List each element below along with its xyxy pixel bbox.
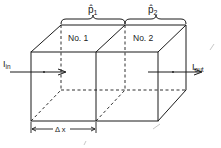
top-mid-edge <box>96 25 125 52</box>
diagram-canvas: p̂1 p̂2 No. 1 No. 2 Iin Iout Δ x <box>0 0 221 148</box>
brace-cell-1 <box>61 15 125 24</box>
braces <box>61 15 186 24</box>
p-hat-1-label: p̂1 <box>88 4 98 16</box>
input-arrow-dot <box>43 71 45 73</box>
top-left-edge <box>31 25 61 52</box>
hidden-bottom-mid-edge <box>96 90 125 121</box>
cell-2-label: No. 2 <box>133 33 154 43</box>
output-arrow-dot <box>172 71 174 73</box>
two-cell-box-diagram: p̂1 p̂2 No. 1 No. 2 Iin Iout Δ x <box>0 0 221 148</box>
p-hat-2-label: p̂2 <box>148 4 158 16</box>
top-right-edge <box>158 25 186 52</box>
box-hidden-edges <box>31 25 186 121</box>
dimension-label: Δ x <box>55 125 66 134</box>
cell-1-label: No. 1 <box>68 33 89 43</box>
hidden-bottom-left-edge <box>31 90 61 121</box>
bottom-right-edge <box>158 90 186 121</box>
scan-artifacts <box>84 44 214 145</box>
box-solid-edges <box>31 25 186 121</box>
front-face <box>31 52 158 121</box>
brace-cell-2 <box>125 15 186 24</box>
input-label: Iin <box>3 59 11 70</box>
